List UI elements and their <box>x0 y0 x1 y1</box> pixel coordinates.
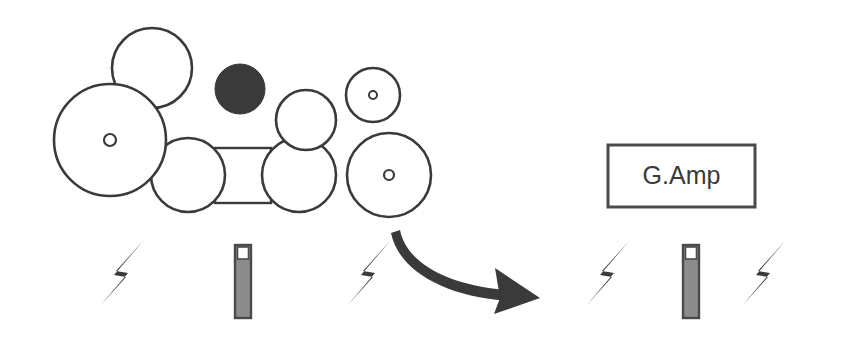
small-hub-circle-hub <box>369 91 377 99</box>
lightning-bolt-icon <box>100 240 144 306</box>
bolt-3 <box>586 240 630 306</box>
upper-middle-circle <box>276 90 336 150</box>
curved-arrow <box>391 230 540 314</box>
bolt-1 <box>100 240 144 306</box>
indicator-bar-right <box>683 245 699 318</box>
indicator-bar-left <box>235 245 251 318</box>
bolt-2 <box>347 240 391 306</box>
lightning-bolt-icon <box>586 240 630 306</box>
indicator-bar-left-cap <box>238 247 249 259</box>
diagram-canvas: G.Amp <box>0 0 842 349</box>
curved-arrow-shaft <box>391 230 508 301</box>
gamp-box-label: G.Amp <box>643 161 721 189</box>
curved-arrow-head <box>494 268 540 314</box>
lightning-bolt-icon <box>347 240 391 306</box>
lightning-bolt-icon <box>742 240 786 306</box>
large-left-circle-hub <box>104 134 116 146</box>
bolt-4 <box>742 240 786 306</box>
right-hub-circle-hub <box>384 170 394 180</box>
indicator-bar-right-cap <box>686 247 697 259</box>
diagram-svg: G.Amp <box>0 0 842 349</box>
dark-circle <box>215 64 265 114</box>
